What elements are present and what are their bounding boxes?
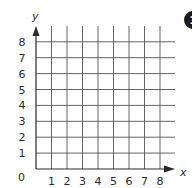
x-tick-label: 8	[157, 175, 164, 188]
y-tick-label: 2	[19, 131, 26, 144]
y-tick-label: 3	[19, 115, 26, 128]
x-axis-arrow-icon	[164, 166, 175, 173]
y-tick-label: 4	[19, 99, 26, 112]
y-axis-arrow-icon	[33, 26, 40, 36]
y-tick-label: 8	[19, 36, 26, 49]
x-tick-label: 1	[48, 175, 55, 188]
y-tick-labels: 12345678	[19, 36, 26, 160]
coordinate-grid: 12345678 12345678 0 y x	[0, 0, 192, 188]
origin-label: 0	[18, 171, 25, 184]
axes	[33, 26, 176, 173]
y-tick-label: 6	[19, 68, 26, 81]
x-tick-label: 6	[126, 175, 133, 188]
x-tick-label: 7	[141, 175, 148, 188]
y-tick-label: 7	[19, 52, 26, 65]
x-tick-label: 2	[64, 175, 71, 188]
coordinate-grid-figure: 12345678 12345678 0 y x 1	[0, 0, 192, 188]
y-axis-label: y	[31, 10, 39, 23]
x-tick-label: 3	[79, 175, 86, 188]
y-tick-label: 5	[19, 84, 26, 97]
gridlines	[36, 26, 175, 169]
x-axis-label: x	[179, 166, 187, 179]
y-tick-label: 1	[19, 147, 26, 160]
x-tick-label: 4	[95, 175, 102, 188]
x-tick-label: 5	[110, 175, 117, 188]
x-tick-labels: 12345678	[48, 175, 164, 188]
